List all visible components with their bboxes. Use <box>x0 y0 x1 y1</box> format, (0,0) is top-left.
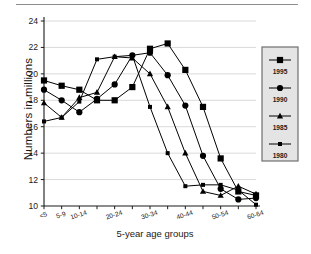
svg-text:20: 20 <box>28 69 38 79</box>
svg-text:50-54: 50-54 <box>211 209 230 221</box>
svg-text:14: 14 <box>28 148 38 158</box>
plot-area: 1012141618202224 <55-910-1420-2430-3440-… <box>0 0 311 254</box>
y-axis-ticks: 1012141618202224 <box>28 16 44 211</box>
svg-text:1995: 1995 <box>273 68 288 75</box>
svg-text:10-14: 10-14 <box>69 209 88 221</box>
svg-text:16: 16 <box>28 122 38 132</box>
data-series <box>41 40 259 206</box>
svg-text:20-24: 20-24 <box>105 209 124 221</box>
svg-text:<5: <5 <box>39 210 49 219</box>
svg-text:1990: 1990 <box>273 96 288 103</box>
svg-text:1980: 1980 <box>273 152 288 159</box>
svg-text:5-9: 5-9 <box>55 210 67 220</box>
chart-figure: Numbers in millions 5-year age groups 10… <box>0 0 311 254</box>
svg-text:10: 10 <box>28 201 38 211</box>
svg-text:40-44: 40-44 <box>175 209 194 221</box>
svg-text:22: 22 <box>28 42 38 52</box>
svg-text:1985: 1985 <box>273 124 288 131</box>
gridlines <box>44 21 256 180</box>
svg-text:60-64: 60-64 <box>246 209 265 221</box>
svg-text:30-34: 30-34 <box>140 209 159 221</box>
legend: 1995199019851980 <box>262 47 298 161</box>
svg-text:12: 12 <box>28 175 38 185</box>
x-axis-ticks: <55-910-1420-2430-3440-4450-5460-64 <box>39 206 265 221</box>
svg-text:18: 18 <box>28 95 38 105</box>
svg-text:24: 24 <box>28 16 38 26</box>
